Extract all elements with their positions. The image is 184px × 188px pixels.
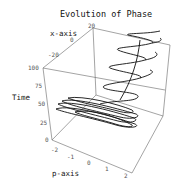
x-tick: 20 [88, 22, 95, 29]
p-axis-label: p-axis [52, 169, 79, 178]
time-tick: 0 [45, 136, 49, 143]
p-tick: -1 [67, 153, 74, 160]
chart-title: Evolution of Phase [60, 9, 152, 19]
p-tick: -2 [51, 146, 58, 153]
time-tick: 25 [40, 119, 47, 126]
trajectory-line [56, 31, 161, 127]
x-tick: -20 [48, 51, 59, 58]
bounding-box [43, 28, 170, 173]
time-axis-label: Time [12, 93, 30, 102]
time-tick: 50 [38, 100, 45, 107]
time-tick: 75 [35, 82, 42, 89]
p-tick: 1 [105, 165, 109, 172]
time-tick: 100 [28, 64, 39, 71]
p-tick: 0 [87, 159, 91, 166]
x-tick: 0 [70, 36, 74, 43]
p-tick: 2 [124, 172, 128, 179]
